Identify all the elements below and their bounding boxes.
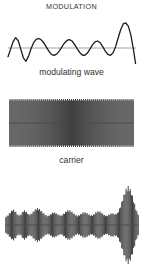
modulating-waveform — [8, 23, 136, 64]
modulated-wave-panel — [5, 182, 139, 266]
page-title: MODULATION — [0, 2, 143, 11]
caption-carrier: carrier — [0, 155, 143, 165]
modulating-wave-plot — [6, 14, 138, 64]
carrier-panel — [9, 98, 134, 148]
modulated-wave-plot — [5, 182, 139, 266]
modulation-figure: MODULATION modulating wave carrier — [0, 0, 143, 267]
caption-modulating-wave: modulating wave — [0, 67, 143, 77]
modulating-wave-panel — [6, 14, 138, 64]
carrier-plot — [9, 98, 134, 148]
